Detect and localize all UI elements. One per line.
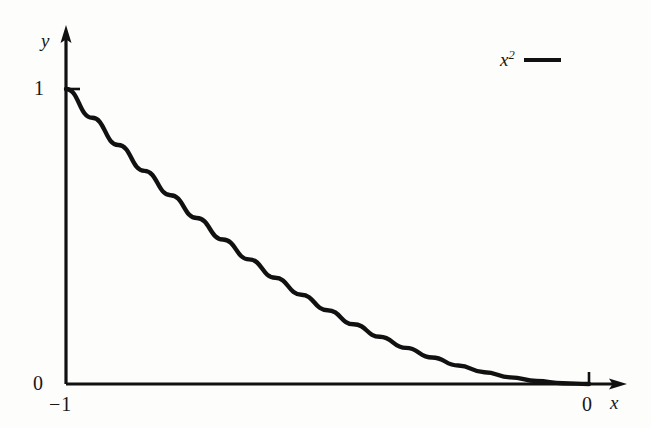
chart-figure: y x 1 0 −1 0 x2	[0, 0, 651, 428]
legend-line-swatch	[524, 58, 561, 62]
x-axis-label: x	[610, 393, 618, 412]
legend-entry-label: x2	[500, 50, 515, 69]
chart-legend: x2	[500, 50, 561, 69]
y-tick-label-1: 1	[34, 78, 44, 98]
x-tick-label-0: 0	[582, 394, 592, 414]
x-tick-label-minus-1: −1	[49, 394, 72, 414]
legend-entry-label-exponent: 2	[508, 48, 514, 62]
data-series-x-squared	[66, 89, 589, 384]
y-axis-label: y	[41, 31, 49, 50]
y-tick-label-0: 0	[33, 373, 43, 393]
